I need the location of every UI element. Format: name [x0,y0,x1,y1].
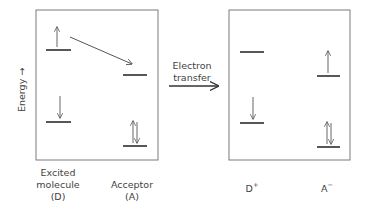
transfer-label-line2: transfer [166,72,218,84]
acceptor-anion-label: A− [312,179,342,195]
donor-upper-level [46,27,71,50]
label-line: (D) [28,191,88,203]
transfer-label-line1: Electron [166,60,218,72]
transfer-label: Electron transfer [166,60,218,84]
donor-cation-lower-level [240,97,264,123]
label-line: (A) [104,191,160,203]
donor-cation-label: D+ [237,179,267,195]
acceptor-lower-level [123,121,147,146]
panel-before-box [36,10,158,160]
energy-label-text: Energy [16,79,27,112]
acceptor-label: Acceptor (A) [104,179,160,203]
acceptor-anion-lower-level [317,122,340,147]
charge-superscript: + [253,181,258,189]
donor-lower-level [46,96,71,122]
label-line: molecule [28,179,88,191]
label-line: Excited [28,167,88,179]
excited-molecule-label: Excited molecule (D) [28,167,88,203]
label-line: Acceptor [104,179,160,191]
electron-transfer-diagonal-arrow [70,37,132,64]
panel-after-box [229,10,350,160]
species-symbol: D [246,183,253,194]
acceptor-anion-upper-level [317,51,340,76]
energy-axis-label: Energy → [16,68,27,112]
energy-arrow-icon: → [16,68,27,76]
charge-superscript: − [328,181,333,189]
